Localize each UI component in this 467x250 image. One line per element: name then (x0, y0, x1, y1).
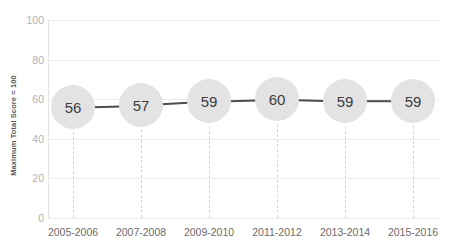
line-segment (162, 102, 188, 105)
dropline (141, 130, 143, 218)
plot-area: 565759605959 (48, 20, 440, 218)
y-axis-tick-labels: 020406080100 (14, 0, 44, 250)
line-segment (94, 105, 120, 107)
dropline (209, 126, 211, 218)
line-segment (298, 99, 324, 101)
y-axis-tick-label: 100 (18, 15, 44, 26)
data-point-bubble[interactable]: 56 (51, 85, 95, 129)
dropline (345, 126, 347, 218)
line-segment (230, 99, 256, 101)
x-axis-tick-label: 2013-2014 (320, 226, 370, 238)
x-axis-tick-label: 2015-2016 (388, 226, 438, 238)
y-axis-tick-label: 60 (18, 94, 44, 105)
y-axis-tick-label: 20 (18, 173, 44, 184)
data-point-bubble[interactable]: 59 (187, 79, 231, 123)
x-axis-tick-label: 2009-2010 (184, 226, 234, 238)
gridline (48, 139, 440, 140)
dropline (277, 124, 279, 218)
data-point-bubble[interactable]: 59 (323, 79, 367, 123)
line-chart: Maximum Total Score = 100 020406080100 5… (0, 0, 467, 250)
x-axis-tick-label: 2011-2012 (252, 226, 301, 238)
data-point-bubble[interactable]: 59 (391, 79, 435, 123)
data-point-bubble[interactable]: 60 (255, 77, 299, 121)
dropline (413, 126, 415, 218)
line-segment (366, 100, 392, 102)
gridline (48, 60, 440, 61)
gridline (48, 218, 440, 219)
y-axis-tick-label: 0 (18, 213, 44, 224)
gridline (48, 178, 440, 179)
x-axis-tick-label: 2005-2006 (48, 226, 98, 238)
x-axis-tick-label: 2007-2008 (116, 226, 166, 238)
data-point-bubble[interactable]: 57 (119, 83, 163, 127)
gridline (48, 20, 440, 21)
y-axis-tick-label: 40 (18, 134, 44, 145)
y-axis-tick-label: 80 (18, 54, 44, 65)
dropline (73, 132, 75, 218)
